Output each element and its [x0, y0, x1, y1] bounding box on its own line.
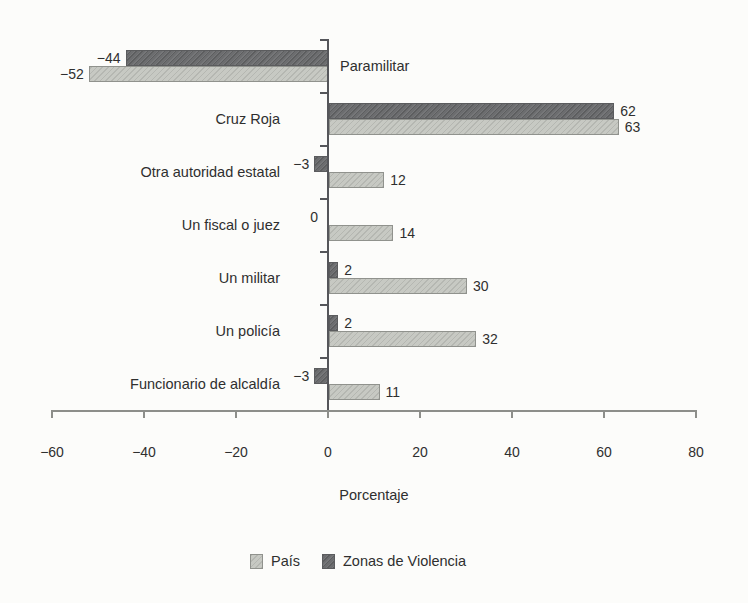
category-label-6: Funcionario de alcaldía	[130, 375, 280, 393]
category-boundary-tick	[320, 39, 327, 41]
x-axis-title: Porcentaje	[174, 487, 574, 503]
value-label-dark-0: −44	[97, 49, 121, 67]
bar-light-5	[329, 331, 476, 347]
bar-light-2	[329, 172, 384, 188]
value-label-light-1: 63	[625, 118, 641, 136]
legend-item-light: País	[250, 553, 300, 569]
category-label-5: Un policía	[216, 322, 280, 340]
category-label-4: Un militar	[219, 269, 280, 287]
x-axis-tick-label: −40	[120, 444, 168, 460]
x-axis-tick-label: 0	[304, 444, 352, 460]
x-axis-tick	[235, 410, 237, 418]
category-boundary-tick	[320, 145, 327, 147]
value-label-light-3: 14	[399, 224, 415, 242]
plot-area: −4462−3022−3−52631214303211ParamilitarCr…	[0, 0, 748, 603]
x-axis-tick	[419, 410, 421, 418]
x-axis-tick-label: −20	[212, 444, 260, 460]
category-label-0: Paramilitar	[340, 57, 409, 75]
bar-dark-6	[314, 368, 328, 384]
legend-swatch-dark	[322, 554, 335, 569]
x-axis-tick	[51, 410, 53, 418]
value-label-dark-4: 2	[344, 261, 352, 279]
x-axis-tick-label: 40	[488, 444, 536, 460]
value-label-dark-2: −3	[293, 155, 309, 173]
value-label-dark-3: 0	[310, 208, 318, 226]
value-label-light-4: 30	[473, 277, 489, 295]
bar-dark-2	[314, 156, 328, 172]
bar-chart-figure: −4462−3022−3−52631214303211ParamilitarCr…	[0, 0, 748, 603]
x-axis-tick	[327, 410, 329, 418]
bar-dark-0	[126, 50, 328, 66]
x-axis-tick-label: −60	[28, 444, 76, 460]
value-label-dark-6: −3	[293, 367, 309, 385]
bar-light-1	[329, 119, 619, 135]
category-boundary-tick	[320, 92, 327, 94]
bar-light-3	[329, 225, 393, 241]
x-axis-tick	[143, 410, 145, 418]
value-label-light-6: 11	[386, 383, 401, 401]
category-boundary-tick	[320, 304, 327, 306]
legend-item-dark: Zonas de Violencia	[322, 553, 466, 569]
bar-dark-1	[329, 103, 614, 119]
x-axis-tick-label: 80	[672, 444, 720, 460]
category-boundary-tick	[320, 357, 327, 359]
bar-light-0	[89, 66, 328, 82]
bar-dark-4	[329, 262, 338, 278]
category-label-3: Un fiscal o juez	[182, 216, 280, 234]
bar-light-6	[329, 384, 380, 400]
category-boundary-tick	[320, 251, 327, 253]
value-label-light-2: 12	[390, 171, 406, 189]
legend-label: País	[271, 553, 300, 569]
category-boundary-tick	[320, 198, 327, 200]
x-axis-tick-label: 20	[396, 444, 444, 460]
bar-dark-5	[329, 315, 338, 331]
x-axis-tick	[511, 410, 513, 418]
category-label-2: Otra autoridad estatal	[141, 163, 280, 181]
x-axis-tick	[603, 410, 605, 418]
value-label-light-0: −52	[60, 65, 84, 83]
x-axis-tick	[695, 410, 697, 418]
value-label-dark-5: 2	[344, 314, 352, 332]
bar-light-4	[329, 278, 467, 294]
zero-baseline	[327, 39, 329, 410]
legend-label: Zonas de Violencia	[343, 553, 466, 569]
x-axis-line	[51, 410, 697, 412]
legend: PaísZonas de Violencia	[250, 553, 466, 569]
legend-swatch-light	[250, 554, 263, 569]
value-label-light-5: 32	[482, 330, 498, 348]
x-axis-tick-label: 60	[580, 444, 628, 460]
category-label-1: Cruz Roja	[216, 110, 280, 128]
